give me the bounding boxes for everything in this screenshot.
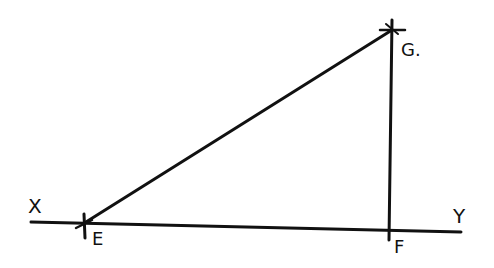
segment-eg — [86, 30, 392, 222]
label-e: E — [92, 230, 103, 248]
segment-fg — [389, 20, 392, 240]
tick-e-vertical — [84, 214, 85, 238]
label-x: X — [28, 196, 42, 216]
label-y: Y — [453, 206, 465, 226]
label-g: G. — [401, 41, 421, 59]
diagram-canvas: X E G. F Y — [0, 0, 494, 268]
label-f: F — [394, 238, 404, 256]
